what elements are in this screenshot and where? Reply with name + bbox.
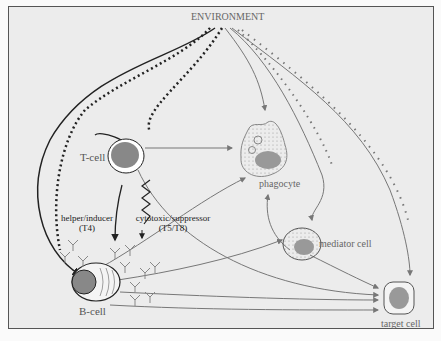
mediator-cell-label: mediator cell xyxy=(319,238,371,249)
helper-inducer-label: helper/inducer (T4) xyxy=(57,213,117,233)
cytotoxic-suppressor-label: cytotoxic/suppressor (T5/T8) xyxy=(128,213,218,233)
target-cell xyxy=(384,282,414,314)
target-cell-label: target cell xyxy=(381,318,421,329)
mediator-cell xyxy=(283,228,321,260)
environment-label: ENVIRONMENT xyxy=(191,11,264,22)
b-cell-label: B-cell xyxy=(79,305,106,317)
t-cell xyxy=(108,139,144,173)
t-cell-label: T-cell xyxy=(80,151,105,163)
phagocyte xyxy=(241,121,287,176)
phagocyte-label: phagocyte xyxy=(259,178,300,189)
immune-system-diagram xyxy=(0,0,441,341)
b-cell xyxy=(72,263,120,301)
